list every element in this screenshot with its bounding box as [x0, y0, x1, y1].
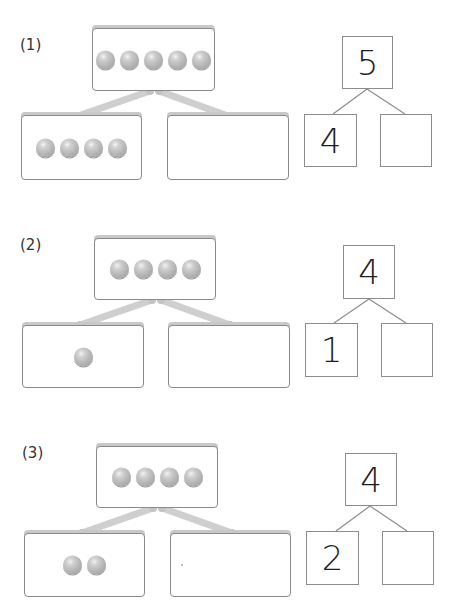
- bead-icon: [74, 347, 93, 366]
- whole-bead-box: [92, 28, 215, 91]
- right-part-bead-box[interactable]: [170, 533, 291, 597]
- stray-mark: [181, 564, 183, 566]
- right-part-bead-box[interactable]: [167, 115, 289, 180]
- bead-icon: [168, 50, 187, 69]
- whole-number-box: 5: [342, 36, 393, 89]
- part-left-number-box: 4: [304, 114, 357, 167]
- problem-2: (2) 4 1: [0, 238, 457, 438]
- problem-1: (1) 5 4: [0, 28, 457, 228]
- bead-icon: [108, 138, 127, 157]
- whole-bead-box: [94, 238, 216, 300]
- bead-icon: [158, 260, 177, 279]
- problem-3: (3) 4 2: [0, 446, 457, 606]
- left-part-bead-box: [21, 115, 142, 180]
- bead-icon: [60, 138, 79, 157]
- right-part-bead-box[interactable]: [168, 325, 290, 388]
- bead-icon: [160, 468, 179, 487]
- part-left-number-box: 1: [305, 323, 358, 377]
- bead-icon: [136, 468, 155, 487]
- bead-icon: [134, 260, 153, 279]
- bead-row: [97, 468, 217, 487]
- bead-icon: [184, 468, 203, 487]
- bead-row: [23, 347, 143, 366]
- bead-icon: [63, 556, 82, 575]
- bead-icon: [192, 50, 211, 69]
- bead-icon: [120, 50, 139, 69]
- whole-bead-box: [96, 446, 218, 508]
- bead-icon: [110, 260, 129, 279]
- bead-icon: [87, 556, 106, 575]
- bead-icon: [84, 138, 103, 157]
- bead-row: [93, 50, 214, 69]
- bead-icon: [112, 468, 131, 487]
- whole-number-box: 4: [345, 453, 397, 506]
- left-part-bead-box: [24, 533, 145, 597]
- bead-row: [25, 556, 144, 575]
- bead-row: [22, 138, 141, 157]
- bead-icon: [182, 260, 201, 279]
- bead-row: [95, 260, 215, 279]
- part-right-answer-box[interactable]: [382, 531, 434, 585]
- bead-icon: [96, 50, 115, 69]
- left-part-bead-box: [22, 325, 144, 388]
- whole-number-box: 4: [343, 245, 395, 299]
- bead-icon: [144, 50, 163, 69]
- part-right-answer-box[interactable]: [381, 323, 433, 377]
- bead-icon: [36, 138, 55, 157]
- part-right-answer-box[interactable]: [380, 114, 432, 167]
- part-left-number-box: 2: [306, 531, 359, 585]
